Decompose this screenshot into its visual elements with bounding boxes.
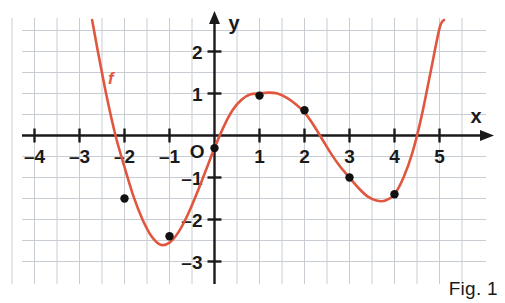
x-tick-label: 2 xyxy=(299,146,310,167)
x-tick-label: 3 xyxy=(344,146,355,167)
origin-label: O xyxy=(190,141,205,162)
y-tick-label: 1 xyxy=(192,84,203,105)
data-point-marker xyxy=(300,106,308,114)
y-tick-label: 2 xyxy=(192,42,203,63)
data-point-marker xyxy=(390,190,398,198)
x-axis-arrowhead xyxy=(480,130,494,141)
data-point-marker xyxy=(345,173,353,181)
data-point-marker xyxy=(210,144,218,152)
figure-container: –4–3–2–11234521–1–2–3 f xyO Fig. 1 xyxy=(0,0,505,303)
x-tick-label: –4 xyxy=(24,146,46,167)
x-axis-name: x xyxy=(470,105,481,127)
x-tick-label: 1 xyxy=(254,146,265,167)
data-point-marker xyxy=(120,194,128,202)
y-axis-arrowhead xyxy=(209,11,220,24)
curve-label-f: f xyxy=(108,69,116,88)
figure-caption: Fig. 1 xyxy=(449,278,498,300)
curve-path-f xyxy=(92,20,444,245)
x-tick-label: –3 xyxy=(69,146,90,167)
y-axis-name: y xyxy=(229,12,241,34)
function-curve: f xyxy=(92,20,444,245)
y-tick-label: –3 xyxy=(181,252,202,273)
data-point-marker xyxy=(255,91,263,99)
x-tick-label: 5 xyxy=(434,146,445,167)
coordinate-plot: –4–3–2–11234521–1–2–3 f xyO xyxy=(0,0,505,303)
data-point-marker xyxy=(165,232,173,240)
x-tick-label: –1 xyxy=(159,146,181,167)
x-tick-label: 4 xyxy=(389,146,400,167)
